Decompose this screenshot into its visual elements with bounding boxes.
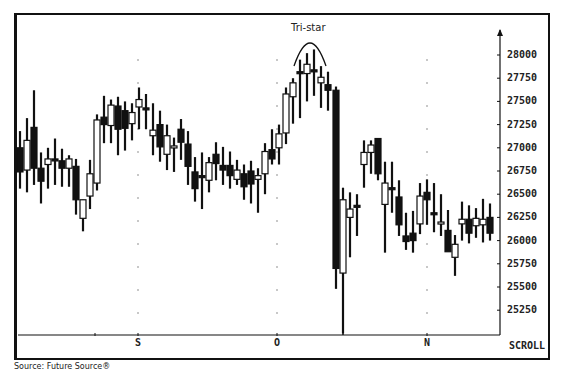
candle	[361, 140, 367, 187]
candle	[473, 208, 479, 238]
candle	[452, 235, 458, 276]
y-tick-label: 26500	[507, 188, 537, 199]
candle	[220, 147, 226, 185]
candle	[136, 87, 142, 129]
y-tick-label: 27750	[507, 72, 537, 83]
candle	[206, 157, 212, 192]
candle	[382, 162, 388, 253]
candle	[283, 87, 289, 144]
candle	[24, 118, 30, 192]
candle	[438, 194, 444, 236]
candle	[241, 165, 247, 200]
y-tick-label: 26000	[507, 235, 537, 246]
candle	[80, 200, 86, 232]
candle	[347, 192, 353, 257]
candle	[129, 103, 135, 140]
candle	[178, 119, 184, 160]
y-tick-label: 26750	[507, 165, 537, 176]
candle	[318, 66, 324, 108]
candle	[410, 211, 416, 253]
y-tick-label: 25500	[507, 281, 537, 292]
candle	[325, 72, 331, 111]
candle	[459, 202, 465, 241]
candle	[445, 210, 451, 252]
candle	[262, 143, 268, 194]
candle	[164, 125, 170, 170]
candle	[480, 199, 486, 243]
candle	[143, 94, 149, 129]
candle	[17, 131, 23, 189]
candle	[276, 125, 282, 165]
candle	[424, 179, 430, 224]
candle	[59, 149, 65, 187]
candle	[311, 49, 317, 95]
candle	[192, 157, 198, 202]
y-tick-label: 28000	[507, 49, 537, 60]
axis-arrow-icon	[497, 29, 503, 36]
candle	[375, 139, 381, 181]
candle	[171, 138, 177, 172]
candle	[389, 162, 395, 213]
candle	[73, 159, 79, 215]
candle	[269, 129, 275, 164]
y-tick-label: 27250	[507, 119, 537, 130]
candle	[297, 60, 303, 118]
candle	[396, 180, 402, 236]
scroll-button[interactable]: SCROLL	[509, 340, 545, 351]
source-caption: Source: Future Source®	[14, 362, 110, 371]
candle	[31, 90, 37, 185]
candle	[234, 160, 240, 185]
candle	[108, 100, 114, 144]
candlestick-plot	[0, 0, 563, 374]
y-tick-label: 27500	[507, 95, 537, 106]
candle	[45, 148, 51, 189]
candle	[199, 152, 205, 209]
candle	[94, 114, 100, 190]
candle	[368, 140, 374, 173]
candle	[38, 152, 44, 203]
y-tick-label: 26250	[507, 211, 537, 222]
candle	[185, 131, 191, 185]
y-tick-label: 25250	[507, 304, 537, 315]
candle	[333, 87, 339, 289]
x-tick-label: O	[274, 337, 280, 348]
y-tick-label: 27000	[507, 142, 537, 153]
candle	[403, 213, 409, 250]
candle	[66, 155, 72, 187]
x-tick-label: N	[424, 337, 430, 348]
candle	[157, 111, 163, 162]
candle	[431, 183, 437, 232]
candle	[213, 142, 219, 180]
candle	[87, 160, 93, 209]
y-tick-label: 25750	[507, 258, 537, 269]
candle	[248, 161, 254, 204]
candle	[52, 139, 58, 185]
candle	[466, 205, 472, 243]
tri-star-arc	[294, 43, 326, 66]
candle	[290, 78, 296, 123]
candle	[115, 97, 121, 155]
candle	[255, 168, 261, 213]
candle	[304, 53, 310, 101]
candle	[487, 203, 493, 240]
candle	[227, 152, 233, 189]
x-tick-label: S	[135, 337, 141, 348]
candle	[122, 101, 128, 150]
candle	[101, 96, 107, 143]
tri-star-annotation: Tri-star	[291, 22, 326, 33]
candle	[354, 194, 360, 236]
candle	[150, 103, 156, 155]
candle	[417, 183, 423, 234]
